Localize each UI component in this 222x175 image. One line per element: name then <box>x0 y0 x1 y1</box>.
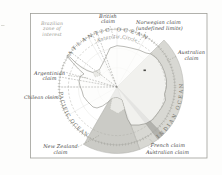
label-brazilian-zone: Brazilian zone of interest <box>33 21 71 37</box>
label-new-zealand-claim: New Zealand claim <box>43 144 78 156</box>
atlas-page: ATLANTIC OCEAN Antarctic Circle PACIFIC … <box>0 0 222 175</box>
label-chilean-claim: Chilean claim <box>24 95 59 101</box>
new-zealand-claim-line2: claim <box>43 150 78 156</box>
australian-claim-east-line2: claim <box>177 56 206 62</box>
brazilian-zone-line2: zone of interest <box>33 26 71 37</box>
label-australian-claim-east: Australian claim <box>177 50 206 62</box>
label-norwegian-claim: Norwegian claim (undefined limits) <box>136 20 190 32</box>
norwegian-claim-line2: (undefined limits) <box>136 26 190 32</box>
label-british-claim: British claim <box>94 14 122 26</box>
british-claim-line2: claim <box>94 19 122 25</box>
south-pole-marker <box>116 86 117 87</box>
station-marker <box>144 70 146 72</box>
label-argentinian-claim: Argentinian claim <box>31 71 68 83</box>
label-australian-claim-south: Australian claim <box>143 150 189 156</box>
argentinian-claim-line2: claim <box>31 76 68 82</box>
label-french-claim: French claim <box>149 143 185 149</box>
